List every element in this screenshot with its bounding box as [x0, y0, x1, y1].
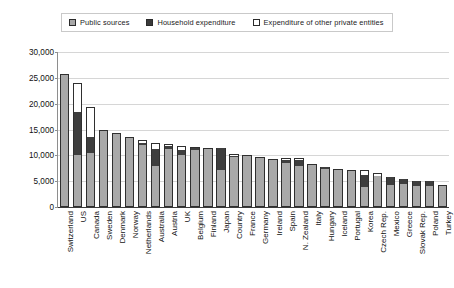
x-axis-label-slot: Portugal — [344, 209, 357, 287]
x-axis-label-slot: Canada — [83, 209, 96, 287]
stacked-bar[interactable] — [425, 181, 434, 207]
bar-slot — [201, 52, 214, 207]
x-axis-label-slot: N. Zealand — [292, 209, 305, 287]
stacked-bar[interactable] — [177, 146, 186, 207]
bar-slot — [162, 52, 175, 207]
x-axis-label-slot: Italy — [305, 209, 318, 287]
stacked-bar[interactable] — [151, 143, 160, 207]
bar-segment-public-sources — [190, 150, 199, 207]
bar-slot — [332, 52, 345, 207]
bar-segment-public-sources — [203, 148, 212, 207]
bar-segment-public-sources — [255, 157, 264, 207]
stacked-bar[interactable] — [333, 169, 342, 207]
stacked-bar[interactable] — [125, 137, 134, 207]
stacked-bar[interactable] — [438, 185, 447, 207]
stacked-bar[interactable] — [138, 140, 147, 207]
bar-segment-public-sources — [86, 153, 95, 207]
bar-slot — [175, 52, 188, 207]
bar-slot — [58, 52, 71, 207]
bar-slot — [97, 52, 110, 207]
stacked-bar[interactable] — [242, 155, 251, 207]
bar-slot — [306, 52, 319, 207]
stacked-bar[interactable] — [412, 181, 421, 207]
x-axis-label-slot: Sweden — [96, 209, 109, 287]
stacked-bar[interactable] — [99, 130, 108, 208]
bar-segment-household-expenditure — [386, 177, 395, 185]
x-axis-label-slot: Denmark — [109, 209, 122, 287]
stacked-bar[interactable] — [255, 157, 264, 207]
bar-slot — [84, 52, 97, 207]
x-axis-label-slot: Turkey — [435, 209, 448, 287]
stacked-bar[interactable] — [112, 133, 121, 207]
legend-label-other-private-entities: Expenditure of other private entities — [264, 18, 384, 27]
legend-label-public-sources: Public sources — [80, 18, 129, 27]
legend-item-household-expenditure: Household expenditure — [146, 18, 235, 27]
stacked-bar[interactable] — [360, 170, 369, 207]
bar-slot — [136, 52, 149, 207]
stacked-bar[interactable] — [373, 173, 382, 207]
stacked-bar[interactable] — [164, 144, 173, 207]
bar-segment-public-sources — [320, 169, 329, 207]
stacked-bar[interactable] — [281, 158, 290, 207]
stacked-bar[interactable] — [399, 179, 408, 207]
bar-segment-public-sources — [73, 155, 82, 207]
bar-segment-public-sources — [425, 186, 434, 207]
bar-segment-public-sources — [216, 170, 225, 207]
bar-slot — [71, 52, 84, 207]
y-axis-tick-mark — [55, 207, 58, 208]
stacked-bar[interactable] — [86, 107, 95, 207]
bar-segment-household-expenditure — [216, 148, 225, 170]
bar-slot — [188, 52, 201, 207]
bar-slot — [149, 52, 162, 207]
y-axis-tick-label: 0 — [49, 203, 54, 212]
empty-square-icon — [253, 19, 260, 26]
stacked-bar[interactable] — [320, 167, 329, 207]
x-axis-labels: SwitzerlandUSCanadaSwedenDenmarkNorwayNe… — [57, 209, 448, 287]
bar-slot — [110, 52, 123, 207]
y-axis-tick-label: 25,000 — [29, 73, 54, 82]
bar-segment-public-sources — [360, 187, 369, 207]
bar-slot — [123, 52, 136, 207]
x-axis-label-slot: Spain — [279, 209, 292, 287]
bar-segment-other-private-entities — [73, 83, 82, 112]
bar-segment-public-sources — [347, 170, 356, 207]
x-axis-label-slot: Korea — [357, 209, 370, 287]
bar-segment-public-sources — [268, 159, 277, 207]
bar-segment-public-sources — [412, 186, 421, 207]
bar-slot — [253, 52, 266, 207]
bar-slot — [371, 52, 384, 207]
stacked-bar[interactable] — [229, 154, 238, 207]
stacked-bar[interactable] — [216, 148, 225, 207]
bar-segment-household-expenditure — [73, 112, 82, 154]
x-axis-label-slot: Germany — [252, 209, 265, 287]
stacked-bar[interactable] — [347, 170, 356, 207]
bar-segment-public-sources — [386, 185, 395, 207]
stacked-bar[interactable] — [268, 159, 277, 207]
x-axis-label-slot: Australia — [148, 209, 161, 287]
x-axis-label-slot: France — [239, 209, 252, 287]
bar-segment-household-expenditure — [360, 175, 369, 187]
x-axis-label-slot: Slovak Rep. — [409, 209, 422, 287]
bar-segment-public-sources — [138, 145, 147, 207]
y-axis-tick-label: 30,000 — [29, 48, 54, 57]
bar-slot — [345, 52, 358, 207]
bar-segment-public-sources — [438, 185, 447, 207]
x-axis-label-slot: Norway — [122, 209, 135, 287]
stacked-bar[interactable] — [203, 148, 212, 207]
bar-slot — [227, 52, 240, 207]
stacked-bar[interactable] — [60, 74, 69, 207]
bar-slot — [319, 52, 332, 207]
x-axis-label-slot: Mexico — [383, 209, 396, 287]
stacked-bar[interactable] — [294, 158, 303, 207]
stacked-bar[interactable] — [386, 177, 395, 207]
y-axis-tick-label: 5,000 — [34, 177, 55, 186]
bar-slot — [423, 52, 436, 207]
gridline: 0 — [58, 207, 449, 208]
stacked-bar[interactable] — [307, 164, 316, 207]
x-axis-label-slot: Ireland — [266, 209, 279, 287]
y-axis-tick-label: 20,000 — [29, 99, 54, 108]
stacked-bar[interactable] — [190, 147, 199, 207]
y-axis-tick-label: 15,000 — [29, 125, 54, 134]
stacked-bar[interactable] — [73, 83, 82, 207]
x-axis-label-slot: Finland — [200, 209, 213, 287]
